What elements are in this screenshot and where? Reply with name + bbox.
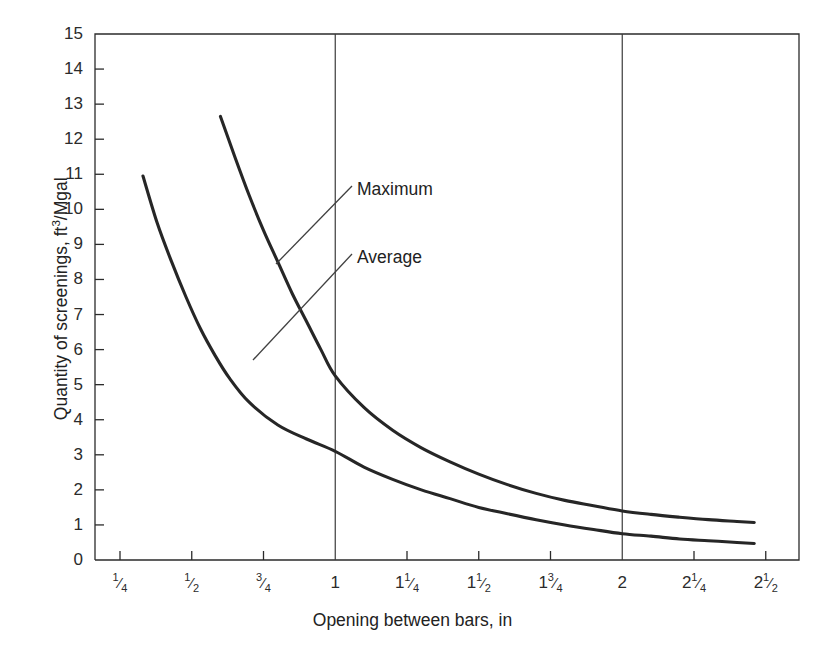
x-tick-label: 21⁄4 (664, 574, 724, 591)
annotation-label-maximum: Maximum (357, 181, 433, 199)
x-tick-label: 11⁄4 (377, 574, 437, 591)
x-tick-label: 1⁄2 (162, 574, 222, 591)
series-curve-average (143, 176, 754, 544)
y-axis-ticks (95, 69, 104, 525)
chart-canvas (0, 0, 825, 653)
grid-lines (335, 34, 622, 560)
x-axis-ticks (120, 551, 766, 560)
y-axis-title: Quantity of screenings, ft3/Mgal (53, 109, 71, 489)
annotation-label-average: Average (357, 249, 422, 267)
y-tick-label: 1 (43, 516, 83, 533)
axis-frame (95, 34, 799, 560)
data-series-curves (143, 116, 754, 543)
x-tick-label: 1 (305, 574, 365, 591)
x-axis-title: Opening between bars, in (0, 612, 825, 630)
leader-line-maximum (276, 186, 352, 264)
x-tick-label: 2 (592, 574, 652, 591)
x-tick-label: 21⁄2 (736, 574, 796, 591)
y-tick-label: 14 (43, 60, 83, 77)
x-tick-label: 11⁄2 (449, 574, 509, 591)
annotation-leader-lines (253, 186, 352, 360)
x-tick-label: 13⁄4 (521, 574, 581, 591)
leader-line-average (253, 254, 352, 360)
series-curve-maximum (220, 116, 754, 522)
y-tick-label: 15 (43, 25, 83, 42)
x-tick-label: 1⁄4 (90, 574, 150, 591)
y-tick-label: 0 (43, 551, 83, 568)
x-tick-label: 3⁄4 (234, 574, 294, 591)
figure-container: 0123456789101112131415 1⁄41⁄23⁄4111⁄411⁄… (0, 0, 825, 653)
